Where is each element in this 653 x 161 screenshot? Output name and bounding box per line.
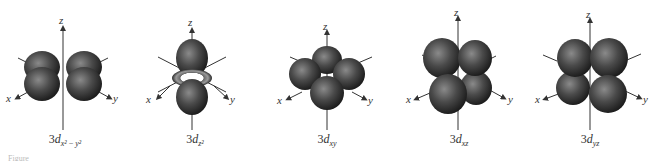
orbital-caption: 3dyz [525,132,653,148]
axis-label-z: z [454,6,458,18]
axis-label-z: z [188,16,192,28]
orbital-caption: 3dz² [130,132,260,148]
axis-label-x: x [146,93,151,105]
axis-label-z: z [59,14,63,26]
axis-label-x: x [406,93,411,105]
orbital-panel-dx2-y2: z x y 3dx² − y² [0,0,130,161]
axis-label-y: y [508,93,513,105]
axis-label-x: x [535,93,540,105]
orbital-caption: 3dx² − y² [0,132,130,148]
axis-label-y: y [113,92,118,104]
orbital-caption: 3dxy [262,132,392,148]
orbital-caption: 3dxz [394,132,524,148]
orbital-panel-dz2: z x y 3dz² [130,0,260,161]
figure-caption-fragment: Figure [8,154,29,161]
axis-label-z: z [586,8,590,20]
axis-label-y: y [643,93,648,105]
orbital-panel-dyz: z x y 3dyz [523,0,653,161]
orbital-panel-dxy: z x y 3dxy [260,0,390,161]
axis-label-y: y [230,93,235,105]
axis-label-y: y [368,94,373,106]
orbital-panel-dxz: z x y 3dxz [390,0,520,161]
axis-label-x: x [277,94,282,106]
axis-label-z: z [323,20,327,32]
axis-label-x: x [6,92,11,104]
